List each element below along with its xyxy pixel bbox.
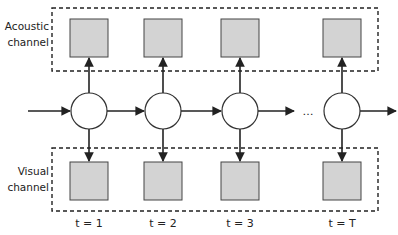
hidden-state-3 <box>222 93 258 129</box>
hidden-state-2 <box>145 93 181 129</box>
visual-channel-label-line2: channel <box>7 181 49 193</box>
acoustic-observation-2 <box>144 19 182 57</box>
time-labels: t = 1 t = 2 t = 3 t = T <box>75 217 356 230</box>
acoustic-channel-label-line2: channel <box>7 36 49 48</box>
visual-channel-label-line1: Visual <box>18 165 49 177</box>
time-label-2: t = 2 <box>149 217 177 230</box>
visual-observation-1 <box>70 162 108 200</box>
acoustic-observation-1 <box>70 19 108 57</box>
visual-observation-2 <box>144 162 182 200</box>
visual-observation-3 <box>221 162 259 200</box>
time-label-T: t = T <box>328 217 356 230</box>
acoustic-observation-3 <box>221 19 259 57</box>
time-label-1: t = 1 <box>75 217 103 230</box>
acoustic-channel-label-line1: Acoustic <box>5 20 49 32</box>
visual-channel-group: Visual channel <box>7 148 378 211</box>
acoustic-channel-group: Acoustic channel <box>5 8 378 71</box>
ellipsis: … <box>303 105 314 118</box>
hidden-state-1 <box>71 93 107 129</box>
visual-observation-T <box>323 162 361 200</box>
hidden-state-T <box>324 93 360 129</box>
acoustic-observation-T <box>323 19 361 57</box>
multimodal-hmm-diagram: Acoustic channel Visual channel … <box>0 0 398 235</box>
time-label-3: t = 3 <box>226 217 254 230</box>
